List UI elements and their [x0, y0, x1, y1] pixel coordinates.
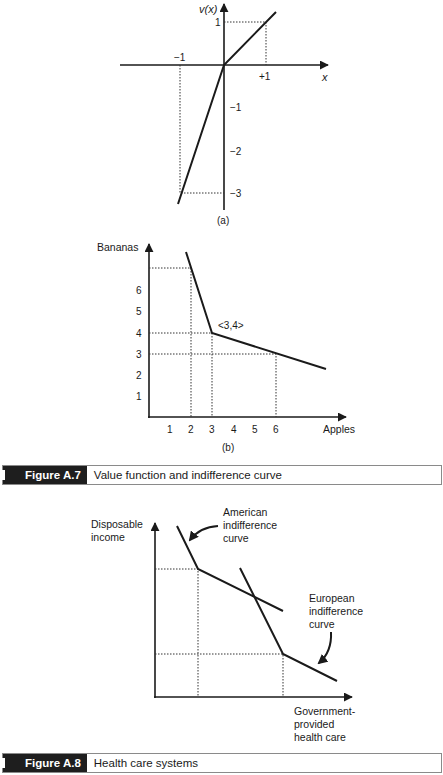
y-tick-2: 2	[136, 370, 142, 381]
figure-a7-title: Value function and indifference curve	[87, 469, 282, 481]
figure-a8-health-care: Disposable income American indifference …	[91, 506, 366, 743]
y-tick-3: 3	[136, 349, 142, 360]
y-tick-1: 1	[136, 391, 142, 402]
kink-label: <3,4>	[218, 320, 244, 331]
y-axis-label: v(x)	[199, 3, 218, 15]
x-tick-1: 1	[167, 424, 173, 435]
american-pointer-arrow	[190, 526, 218, 540]
figure-b-indifference-curve: Bananas Apples <3,4> 6 5 4 3 2 1 1 2 3 4…	[97, 241, 355, 453]
figure-b-sublabel: (b)	[222, 442, 234, 453]
x-axis-label: Government- provided health care	[294, 705, 358, 743]
guide-european	[155, 654, 283, 697]
guide-top	[149, 268, 191, 417]
x-axis-label: Apples	[323, 423, 355, 435]
y-axis-label: Bananas	[97, 241, 138, 253]
indifference-curve-line	[186, 252, 326, 369]
x-tick-2: 2	[188, 424, 194, 435]
european-pointer-arrow	[319, 632, 331, 663]
figure-a-sublabel: (a)	[217, 215, 229, 226]
x-axis-label: x	[321, 71, 328, 83]
value-function-line	[178, 12, 276, 204]
european-label: European indifference curve	[309, 592, 366, 630]
tick-x-neg1: −1	[174, 52, 186, 63]
y-axis-label: Disposable income	[91, 518, 146, 543]
figure-a7-number: Figure A.7	[3, 466, 87, 484]
y-tick-6: 6	[136, 285, 142, 296]
x-tick-3: 3	[209, 424, 215, 435]
guide-american	[155, 569, 198, 697]
x-tick-4: 4	[231, 424, 237, 435]
y-tick-4: 4	[136, 328, 142, 339]
y-tick-5: 5	[136, 306, 142, 317]
x-tick-6: 6	[273, 424, 279, 435]
x-tick-5: 5	[252, 424, 258, 435]
tick-y-neg1: −1	[230, 102, 242, 113]
figure-a8-title: Health care systems	[87, 757, 198, 769]
tick-y-pos1: 1	[215, 17, 221, 28]
figures-canvas: v(x) x −1 +1 1 −1 −2 −3 (a) Bananas Appl…	[0, 0, 443, 775]
tick-x-pos1: +1	[259, 71, 271, 82]
tick-y-neg3: −3	[230, 188, 242, 199]
guide-kink	[149, 333, 212, 417]
figure-a-value-function: v(x) x −1 +1 1 −1 −2 −3 (a)	[120, 3, 328, 226]
figure-a8-caption: Figure A.8 Health care systems	[2, 753, 442, 773]
figure-a7-caption: Figure A.7 Value function and indifferen…	[2, 465, 442, 485]
american-label: American indifference curve	[223, 506, 280, 544]
tick-y-neg2: −2	[230, 146, 242, 157]
figure-a8-number: Figure A.8	[3, 754, 87, 772]
